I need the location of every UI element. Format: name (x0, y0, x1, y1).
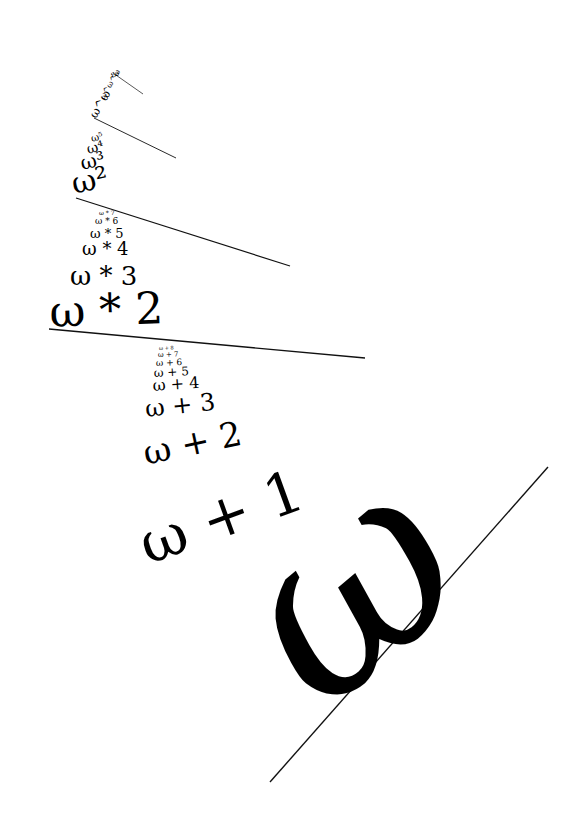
ordinal-spiral-diagram: ω ω + 1ω + 2ω + 3ω + 4ω + 5ω + 6ω + 7ω +… (0, 0, 571, 830)
omega-times-arm-label: ω * 3 (70, 261, 137, 291)
omega-times-arm-label: ω * 6 (95, 216, 119, 226)
divider-ray-omega-omega (94, 118, 176, 158)
omega-times-arm-label: ω * 5 (90, 226, 124, 241)
omega-times-arm-label: ω * 7 (99, 209, 115, 216)
omega-times-arm-label: ω * 4 (82, 238, 129, 259)
main-omega-label: ω (174, 409, 517, 763)
omega-plus-arm-label: ω + 8 (159, 344, 174, 351)
omega-plus-arm-label: ω + 7 (158, 350, 179, 359)
